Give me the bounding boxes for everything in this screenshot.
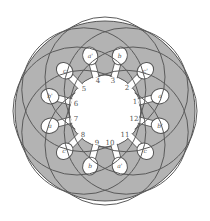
- slot-number: 9: [95, 139, 99, 147]
- slot-number: 8: [81, 131, 85, 139]
- coil-mark: c': [62, 147, 67, 154]
- coil-mark: a': [88, 52, 94, 59]
- coil-mark: a: [48, 122, 52, 129]
- coil-mark: b: [118, 52, 122, 59]
- stator-diagram: ac'ba'cb'ac'ba'cb'123456789101112: [0, 0, 210, 221]
- slot-number: 5: [82, 85, 86, 93]
- slot-number: 10: [106, 139, 115, 147]
- slot-number: 12: [130, 115, 139, 123]
- stator-svg: ac'ba'cb'ac'ba'cb'123456789101112: [0, 0, 210, 221]
- slot-number: 1: [133, 98, 137, 106]
- coil-mark: b: [88, 162, 92, 169]
- coil-mark: a: [158, 92, 162, 99]
- slot-number: 6: [74, 100, 79, 108]
- slot-number: 7: [74, 115, 78, 123]
- coil-mark: a': [117, 162, 123, 169]
- coil-mark: b': [157, 122, 163, 129]
- slot-number: 11: [121, 131, 130, 139]
- slot-number: 3: [111, 77, 115, 85]
- coil-mark: b': [47, 92, 53, 99]
- slot-number: 4: [96, 77, 101, 85]
- slot-number: 2: [125, 84, 129, 92]
- coil-mark: c': [143, 67, 148, 74]
